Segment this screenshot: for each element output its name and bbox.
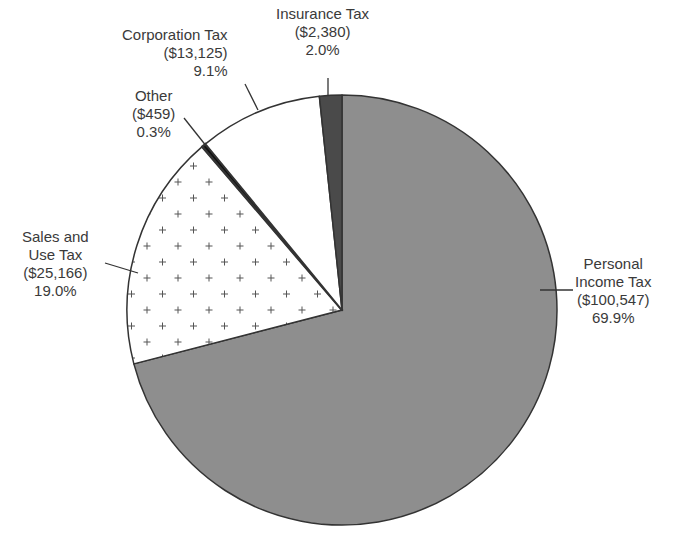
- label-corporation-tax: Corporation Tax ($13,125) 9.1%: [122, 26, 228, 80]
- label-name: Other: [132, 87, 175, 105]
- label-amount: ($25,166): [22, 264, 89, 282]
- label-other: Other ($459) 0.3%: [132, 87, 175, 141]
- label-percent: 19.0%: [22, 282, 89, 300]
- label-percent: 69.9%: [575, 309, 651, 327]
- label-name: Sales and: [22, 228, 89, 246]
- label-percent: 2.0%: [276, 41, 369, 59]
- label-amount: ($2,380): [276, 23, 369, 41]
- label-insurance-tax: Insurance Tax ($2,380) 2.0%: [276, 5, 369, 59]
- label-name: Personal: [575, 255, 651, 273]
- label-name: Insurance Tax: [276, 5, 369, 23]
- label-percent: 9.1%: [122, 62, 228, 80]
- label-name: Income Tax: [575, 273, 651, 291]
- label-sales-and-use-tax: Sales and Use Tax ($25,166) 19.0%: [22, 228, 89, 300]
- label-amount: ($13,125): [122, 44, 228, 62]
- label-personal-income-tax: Personal Income Tax ($100,547) 69.9%: [575, 255, 651, 327]
- label-amount: ($100,547): [575, 291, 651, 309]
- leader-other: [184, 118, 207, 147]
- pie-slices: [127, 95, 557, 525]
- label-name: Use Tax: [22, 246, 89, 264]
- label-percent: 0.3%: [132, 123, 175, 141]
- label-name: Corporation Tax: [122, 26, 228, 44]
- leader-corporation: [245, 84, 258, 110]
- label-amount: ($459): [132, 105, 175, 123]
